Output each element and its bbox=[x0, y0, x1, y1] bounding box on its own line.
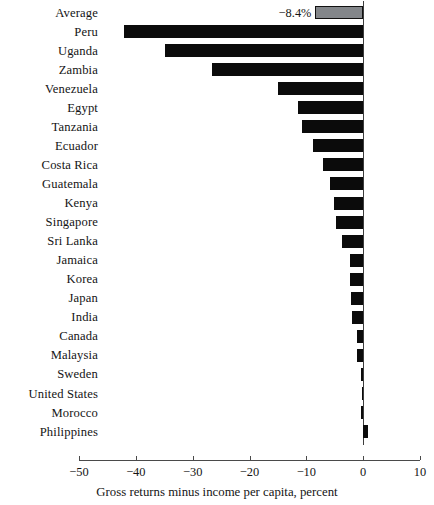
x-axis-tick-0 bbox=[363, 456, 364, 460]
bar-canada bbox=[357, 330, 363, 343]
bar-egypt bbox=[298, 101, 363, 114]
x-axis-tick-10 bbox=[420, 456, 421, 460]
bar-india bbox=[352, 311, 363, 324]
x-axis-tick-neg10 bbox=[306, 456, 307, 460]
average-value-annotation: −8.4% bbox=[257, 7, 311, 20]
bar-morocco bbox=[361, 406, 363, 419]
category-label-malaysia: Malaysia bbox=[0, 349, 98, 362]
bar-costa-rica bbox=[323, 158, 363, 171]
bar-tanzania bbox=[302, 120, 363, 133]
category-label-costa-rica: Costa Rica bbox=[0, 159, 98, 172]
category-label-uganda: Uganda bbox=[0, 45, 98, 58]
category-label-ecuador: Ecuador bbox=[0, 140, 98, 153]
category-label-canada: Canada bbox=[0, 330, 98, 343]
category-label-tanzania: Tanzania bbox=[0, 121, 98, 134]
x-axis-title: Gross returns minus income per capita, p… bbox=[0, 485, 434, 499]
x-axis-tick-neg40 bbox=[136, 456, 137, 460]
category-label-kenya: Kenya bbox=[0, 197, 98, 210]
zero-reference-line bbox=[363, 1, 364, 445]
x-axis-tick-label-neg40: −40 bbox=[111, 466, 161, 479]
category-label-morocco: Morocco bbox=[0, 407, 98, 420]
bar-zambia bbox=[212, 63, 363, 76]
x-axis-tick-label-0: 0 bbox=[338, 466, 388, 479]
bar-peru bbox=[124, 25, 363, 38]
category-label-india: India bbox=[0, 311, 98, 324]
category-label-egypt: Egypt bbox=[0, 102, 98, 115]
bar-sweden bbox=[361, 368, 363, 381]
category-label-average: Average bbox=[0, 7, 98, 20]
bar-sri-lanka bbox=[342, 235, 364, 248]
bar-uganda bbox=[165, 44, 363, 57]
bar-kenya bbox=[334, 197, 364, 210]
x-axis-tick-neg20 bbox=[250, 456, 251, 460]
bar-malaysia bbox=[357, 349, 363, 362]
category-label-japan: Japan bbox=[0, 292, 98, 305]
x-axis-tick-label-neg30: −30 bbox=[168, 466, 218, 479]
bar-guatemala bbox=[330, 177, 364, 190]
category-label-zambia: Zambia bbox=[0, 64, 98, 77]
category-label-united-states: United States bbox=[0, 388, 98, 401]
x-axis-tick-label-neg20: −20 bbox=[225, 466, 275, 479]
category-label-sweden: Sweden bbox=[0, 368, 98, 381]
bar-average bbox=[315, 6, 363, 19]
horizontal-bar-chart: AveragePeruUgandaZambiaVenezuelaEgyptTan… bbox=[0, 0, 434, 505]
bar-united-states bbox=[362, 387, 363, 400]
category-label-venezuela: Venezuela bbox=[0, 83, 98, 96]
x-axis-tick-label-10: 10 bbox=[395, 466, 434, 479]
bar-venezuela bbox=[278, 82, 363, 95]
x-axis-tick-neg50 bbox=[79, 456, 80, 460]
bar-philippines bbox=[363, 425, 368, 438]
bar-korea bbox=[350, 273, 363, 286]
category-label-singapore: Singapore bbox=[0, 216, 98, 229]
category-label-korea: Korea bbox=[0, 273, 98, 286]
category-label-philippines: Philippines bbox=[0, 426, 98, 439]
bar-ecuador bbox=[313, 139, 363, 152]
bar-jamaica bbox=[350, 254, 364, 267]
bar-japan bbox=[351, 292, 364, 305]
x-axis-tick-neg30 bbox=[193, 456, 194, 460]
category-label-guatemala: Guatemala bbox=[0, 178, 98, 191]
category-label-jamaica: Jamaica bbox=[0, 254, 98, 267]
x-axis-tick-label-neg50: −50 bbox=[54, 466, 104, 479]
bar-singapore bbox=[336, 216, 363, 229]
category-label-peru: Peru bbox=[0, 26, 98, 39]
category-label-sri-lanka: Sri Lanka bbox=[0, 235, 98, 248]
x-axis-line bbox=[79, 460, 420, 461]
x-axis-tick-label-neg10: −10 bbox=[281, 466, 331, 479]
